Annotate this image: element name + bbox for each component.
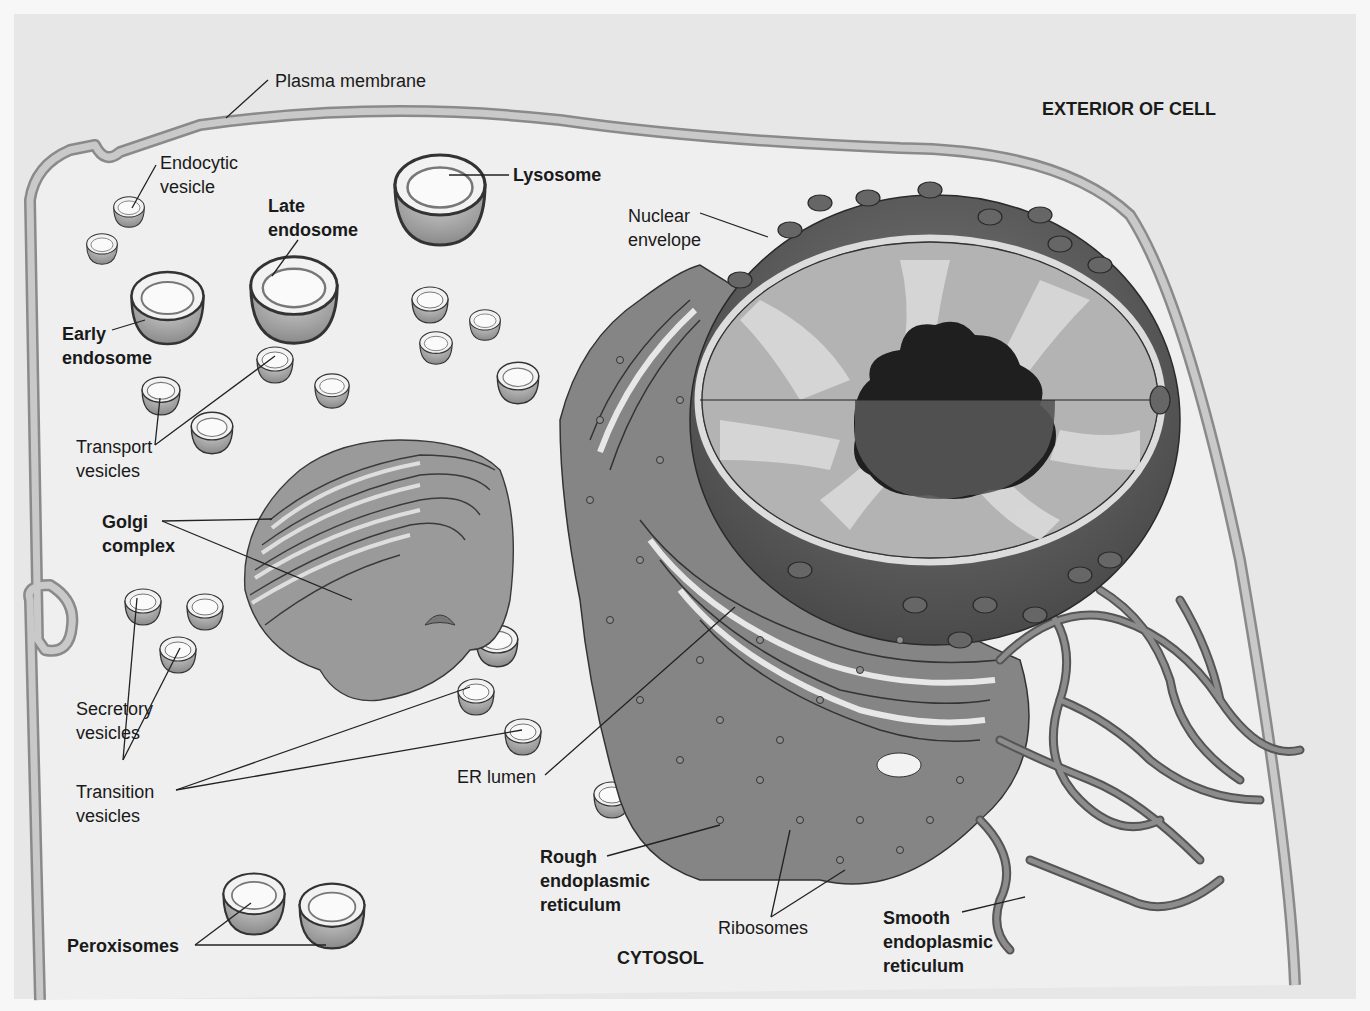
label-golgi-complex-2: complex [102,534,175,558]
late-endosome [251,257,337,343]
early-endosome [132,272,204,344]
label-late-endosome-1: Late [268,194,305,218]
label-secretory-vesicles-2: vesicles [76,721,140,745]
label-transport-vesicles-2: vesicles [76,459,140,483]
label-rough-er-2: endoplasmic [540,869,650,893]
label-early-endosome-2: endosome [62,346,152,370]
label-golgi-complex-1: Golgi [102,510,148,534]
label-endocytic-vesicle-2: vesicle [160,175,215,199]
label-nuclear-envelope-2: envelope [628,228,701,252]
label-exterior-of-cell: EXTERIOR OF CELL [1042,97,1216,121]
label-endocytic-vesicle-1: Endocytic [160,151,238,175]
label-rough-er-3: reticulum [540,893,621,917]
label-smooth-er-1: Smooth [883,906,950,930]
transition-vesicle [458,679,494,715]
label-plasma-membrane: Plasma membrane [275,69,426,93]
peroxisome [223,873,284,934]
secretory-vesicle [125,589,161,625]
lysosome [395,155,485,245]
label-lysosome: Lysosome [513,163,601,187]
cell-diagram: Plasma membrane EXTERIOR OF CELL Endocyt… [0,0,1370,1011]
label-transport-vesicles-1: Transport [76,435,152,459]
label-cytosol: CYTOSOL [617,946,704,970]
label-smooth-er-3: reticulum [883,954,964,978]
label-peroxisomes: Peroxisomes [67,934,179,958]
label-secretory-vesicles-1: Secretory [76,697,153,721]
label-rough-er-1: Rough [540,845,597,869]
label-early-endosome-1: Early [62,322,106,346]
label-transition-vesicles-1: Transition [76,780,154,804]
endocytic-vesicle [114,197,145,228]
label-late-endosome-2: endosome [268,218,358,242]
label-nuclear-envelope-1: Nuclear [628,204,690,228]
label-transition-vesicles-2: vesicles [76,804,140,828]
label-ribosomes: Ribosomes [718,916,808,940]
label-er-lumen: ER lumen [457,765,536,789]
label-smooth-er-2: endoplasmic [883,930,993,954]
